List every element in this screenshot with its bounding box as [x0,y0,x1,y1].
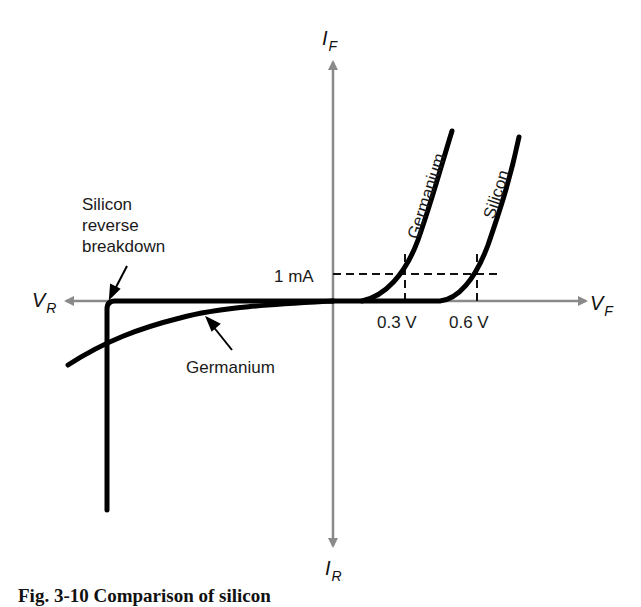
vr-label: VR [32,289,56,316]
v03-label: 0.3 V [377,313,417,332]
reference-lines [333,254,500,301]
annotation-arrows [110,266,232,350]
if-label: IF [322,27,339,54]
germanium-curve-label: Germanium [404,151,450,241]
germanium-reverse-label: Germanium [186,358,275,377]
ir-label: IR [325,557,342,584]
vf-label: VF [590,292,614,319]
v06-label: 0.6 V [449,313,489,332]
one-ma-label: 1 mA [274,267,314,286]
breakdown-label-line1: Silicon [82,195,132,214]
breakdown-label-line2: reverse [82,216,139,235]
figure-caption: Fig. 3-10 Comparison of silicon [18,585,271,607]
silicon-curve-label: Silicon [480,168,514,222]
axes [66,62,586,546]
silicon-reverse-curve [107,301,333,510]
breakdown-label-line3: breakdown [82,237,165,256]
